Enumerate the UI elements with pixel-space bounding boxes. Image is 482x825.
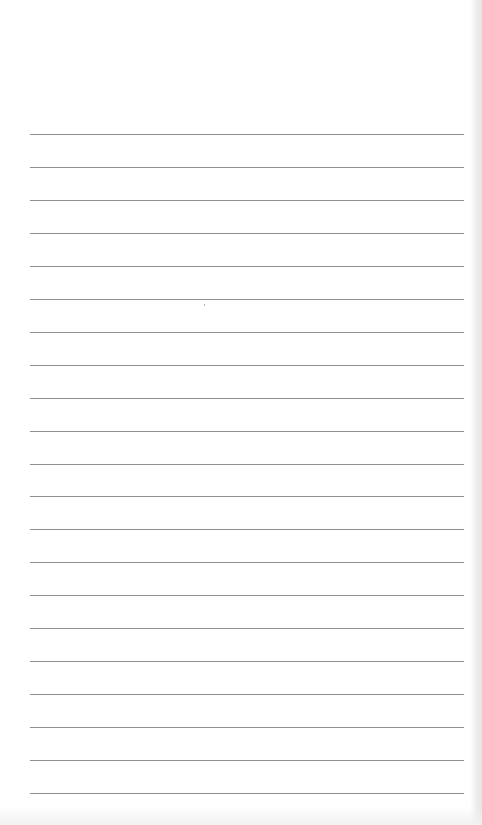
- ruled-line: [30, 628, 464, 629]
- ruled-line: [30, 299, 464, 300]
- ruled-line: [30, 134, 464, 135]
- ruled-line: [30, 200, 464, 201]
- ruled-line: [30, 167, 464, 168]
- ruled-line: [30, 793, 464, 794]
- paper-speck: [204, 304, 205, 306]
- ruled-line: [30, 266, 464, 267]
- ruled-line: [30, 398, 464, 399]
- ruled-line: [30, 562, 464, 563]
- ruled-line: [30, 529, 464, 530]
- ruled-line: [30, 496, 464, 497]
- ruled-line: [30, 332, 464, 333]
- page-edge-shadow: [470, 0, 482, 825]
- ruled-line: [30, 727, 464, 728]
- ruled-line: [30, 694, 464, 695]
- lined-paper-page: [0, 0, 482, 825]
- page-bottom-shadow: [0, 807, 482, 825]
- ruled-line: [30, 464, 464, 465]
- ruled-line: [30, 233, 464, 234]
- ruled-line: [30, 760, 464, 761]
- ruled-line: [30, 431, 464, 432]
- ruled-line: [30, 661, 464, 662]
- ruled-line: [30, 595, 464, 596]
- ruled-line: [30, 365, 464, 366]
